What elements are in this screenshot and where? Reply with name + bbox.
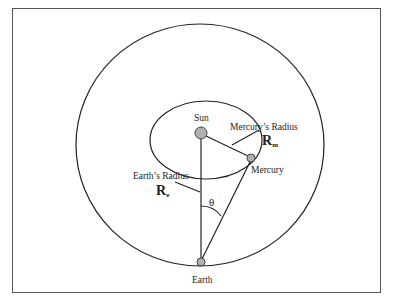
earth-icon [197, 258, 205, 266]
mercury-label: Mercury [251, 166, 284, 176]
sun-icon [195, 127, 207, 139]
earth-radius-pointer [175, 182, 200, 192]
earth-radius-label: Earth’s Radius [133, 172, 189, 182]
earth-orbit [76, 24, 324, 266]
theta-label: θ [209, 197, 214, 208]
rm-sub: m [272, 141, 278, 149]
mercury-icon [247, 154, 255, 162]
re-main: R [156, 183, 166, 198]
rm-main: R [262, 133, 272, 148]
re-sub: e [166, 191, 169, 199]
earth-label: Earth [192, 276, 213, 286]
rm-label: Rm [262, 134, 278, 149]
mercury-radius-label: Mercury’s Radius [230, 123, 298, 133]
orbit-diagram [0, 0, 394, 301]
re-label: Re [156, 184, 169, 199]
sun-label: Sun [194, 114, 209, 124]
